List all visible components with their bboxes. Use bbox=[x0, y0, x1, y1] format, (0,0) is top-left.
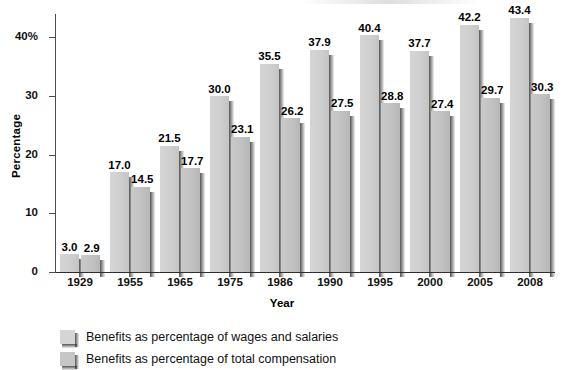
bar-value-label: 21.5 bbox=[158, 133, 180, 145]
bar-value-label: 30.0 bbox=[208, 84, 230, 96]
bar-1995-series-2: 28.8 bbox=[381, 103, 401, 272]
x-tick-label-2005: 2005 bbox=[467, 276, 493, 288]
y-tick-label-30: 30 bbox=[25, 90, 38, 102]
x-tick-label-1990: 1990 bbox=[317, 276, 343, 288]
y-tick-30 bbox=[49, 96, 56, 97]
x-tick-label-1965: 1965 bbox=[167, 276, 193, 288]
legend-label-series-2: Benefits as percentage of total compensa… bbox=[86, 351, 336, 368]
x-tick-label-1975: 1975 bbox=[217, 276, 243, 288]
bar-group-1995: 40.428.8 bbox=[360, 14, 401, 272]
y-tick-0 bbox=[49, 272, 56, 273]
bar-group-1986: 35.526.2 bbox=[260, 14, 301, 272]
series-1-swatch-icon bbox=[60, 330, 75, 344]
series-2-swatch-icon bbox=[60, 352, 75, 366]
bar-value-label: 29.7 bbox=[481, 85, 503, 97]
bar-value-label: 2.9 bbox=[84, 243, 100, 255]
bar-2005-series-1: 42.2 bbox=[460, 25, 480, 272]
legend-label-series-1: Benefits as percentage of wages and sala… bbox=[86, 329, 338, 346]
bar-chart: 010203040% Percentage 3.02.917.014.521.5… bbox=[0, 0, 564, 370]
y-axis-tick-labels: 010203040% bbox=[0, 0, 48, 370]
bar-1955-series-2: 14.5 bbox=[131, 187, 151, 272]
bar-value-label: 37.9 bbox=[308, 37, 330, 49]
bar-2005-series-2: 29.7 bbox=[481, 98, 501, 272]
scan-artifact bbox=[300, 0, 480, 4]
bar-value-label: 27.5 bbox=[331, 98, 353, 110]
x-tick-label-2000: 2000 bbox=[417, 276, 443, 288]
bar-1929-series-1: 3.0 bbox=[60, 254, 80, 272]
bar-value-label: 42.2 bbox=[458, 12, 480, 24]
bar-value-label: 17.0 bbox=[108, 160, 130, 172]
bar-value-label: 43.4 bbox=[508, 5, 530, 17]
bar-value-label: 40.4 bbox=[358, 23, 380, 35]
y-tick-label-20: 20 bbox=[25, 149, 38, 161]
bar-value-label: 23.1 bbox=[231, 124, 253, 136]
bar-1986-series-1: 35.5 bbox=[260, 64, 280, 272]
bar-1995-series-1: 40.4 bbox=[360, 35, 380, 272]
bar-value-label: 27.4 bbox=[431, 99, 453, 111]
bar-1965-series-2: 17.7 bbox=[181, 168, 201, 272]
bar-1990-series-2: 27.5 bbox=[331, 111, 351, 272]
y-tick-20 bbox=[49, 155, 56, 156]
bar-value-label: 37.7 bbox=[408, 38, 430, 50]
bar-group-2000: 37.727.4 bbox=[410, 14, 451, 272]
bar-1965-series-1: 21.5 bbox=[160, 146, 180, 272]
bar-1975-series-2: 23.1 bbox=[231, 137, 251, 272]
bar-1929-series-2: 2.9 bbox=[81, 255, 101, 272]
legend-item-series-1: Benefits as percentage of wages and sala… bbox=[60, 329, 480, 348]
bar-value-label: 26.2 bbox=[281, 106, 303, 118]
bar-group-1990: 37.927.5 bbox=[310, 14, 351, 272]
bar-group-1965: 21.517.7 bbox=[160, 14, 201, 272]
bar-value-label: 17.7 bbox=[181, 156, 203, 168]
x-tick-label-1986: 1986 bbox=[267, 276, 293, 288]
bar-group-1975: 30.023.1 bbox=[210, 14, 251, 272]
bar-2000-series-2: 27.4 bbox=[431, 111, 451, 272]
y-tick-40 bbox=[49, 37, 56, 38]
legend-item-series-2: Benefits as percentage of total compensa… bbox=[60, 351, 480, 370]
bar-value-label: 3.0 bbox=[62, 242, 78, 254]
bar-2008-series-1: 43.4 bbox=[510, 18, 530, 272]
y-tick-label-10: 10 bbox=[25, 208, 38, 220]
plot-area: 3.02.917.014.521.517.730.023.135.526.237… bbox=[56, 14, 556, 272]
bar-value-label: 30.3 bbox=[531, 82, 553, 94]
bar-1955-series-1: 17.0 bbox=[110, 172, 130, 272]
bar-value-label: 14.5 bbox=[131, 174, 153, 186]
chart-legend: Benefits as percentage of wages and sala… bbox=[60, 329, 480, 370]
y-tick-label-40: 40% bbox=[15, 32, 38, 44]
x-tick-label-1929: 1929 bbox=[67, 276, 93, 288]
bar-group-1929: 3.02.9 bbox=[60, 14, 101, 272]
x-axis-tick-labels: 1929195519651975198619901995200020052008 bbox=[0, 276, 564, 294]
bar-2008-series-2: 30.3 bbox=[531, 94, 551, 272]
x-tick-label-1995: 1995 bbox=[367, 276, 393, 288]
bar-group-2005: 42.229.7 bbox=[460, 14, 501, 272]
bar-1975-series-1: 30.0 bbox=[210, 96, 230, 272]
x-tick-label-2008: 2008 bbox=[517, 276, 543, 288]
bar-1990-series-1: 37.9 bbox=[310, 50, 330, 272]
x-tick-label-1955: 1955 bbox=[117, 276, 143, 288]
y-tick-10 bbox=[49, 213, 56, 214]
bar-value-label: 28.8 bbox=[381, 91, 403, 103]
x-axis-title: Year bbox=[0, 297, 564, 309]
y-axis-title: Percentage bbox=[10, 114, 22, 178]
bar-group-1955: 17.014.5 bbox=[110, 14, 151, 272]
bar-1986-series-2: 26.2 bbox=[281, 118, 301, 272]
bar-value-label: 35.5 bbox=[258, 51, 280, 63]
bar-group-2008: 43.430.3 bbox=[510, 14, 551, 272]
bar-2000-series-1: 37.7 bbox=[410, 51, 430, 272]
